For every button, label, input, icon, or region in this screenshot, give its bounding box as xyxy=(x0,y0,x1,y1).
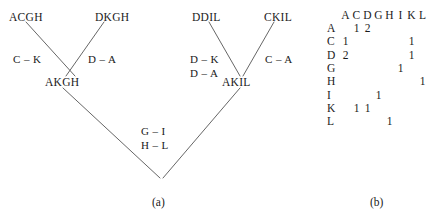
leaf-dkgh: DKGH xyxy=(95,12,129,24)
matrix-cell-g-a xyxy=(340,62,351,75)
matrix-cell-i-h xyxy=(384,89,395,102)
matrix-header-row: A C D G H I K L xyxy=(326,9,428,22)
matrix-cell-l-c xyxy=(351,115,362,128)
matrix-cell-a-g xyxy=(373,22,384,35)
matrix-row-header-i: I xyxy=(326,89,340,102)
matrix-panel: A C D G H I K L A 1 2 xyxy=(322,0,447,222)
matrix-cell-k-l xyxy=(417,102,428,115)
matrix-cell-g-c xyxy=(351,62,362,75)
matrix-cell-i-d xyxy=(362,89,373,102)
edge-label-c-k-line-1: C – K xyxy=(13,53,41,67)
matrix-cell-c-i xyxy=(395,36,406,49)
matrix-col-header-c: C xyxy=(351,9,362,22)
matrix-cell-d-i xyxy=(395,49,406,62)
leaf-ckil: CKIL xyxy=(264,12,292,24)
matrix-cell-a-a xyxy=(340,22,351,35)
matrix-cell-a-i xyxy=(395,22,406,35)
matrix-cell-c-c xyxy=(351,36,362,49)
matrix-col-header-a: A xyxy=(340,9,351,22)
edge-label-h-l-line-2: H – L xyxy=(141,139,169,153)
matrix-cell-a-l xyxy=(417,22,428,35)
edge-label-c-a: C – A xyxy=(265,53,293,67)
matrix-cell-g-l xyxy=(417,62,428,75)
panel-b-caption: (b) xyxy=(370,197,383,209)
table-row: G 1 xyxy=(326,62,428,75)
table-row: I 1 xyxy=(326,89,428,102)
matrix-col-header-h: H xyxy=(384,9,395,22)
matrix-cell-k-a xyxy=(340,102,351,115)
matrix-cell-c-l xyxy=(417,36,428,49)
matrix-cell-c-h xyxy=(384,36,395,49)
matrix-cell-a-d: 2 xyxy=(362,22,373,35)
matrix-cell-i-c xyxy=(351,89,362,102)
matrix-cell-h-a xyxy=(340,75,351,88)
edge-label-d-a: D – A xyxy=(88,53,116,67)
edge-label-d-a-line-1: D – A xyxy=(88,53,116,67)
table-row: L 1 xyxy=(326,115,428,128)
edge-akil-root xyxy=(163,88,240,178)
figure-root: ACGH DKGH DDIL CKIL AKGH AKIL C – K D – … xyxy=(0,0,447,222)
matrix-cell-h-c xyxy=(351,75,362,88)
matrix-cell-h-h xyxy=(384,75,395,88)
matrix-col-header-g: G xyxy=(373,9,384,22)
matrix-cell-i-a xyxy=(340,89,351,102)
matrix-cell-l-k xyxy=(406,115,417,128)
matrix-cell-d-h xyxy=(384,49,395,62)
panel-a-caption: (a) xyxy=(152,197,165,209)
node-akil: AKIL xyxy=(222,77,251,89)
matrix-cell-c-k: 1 xyxy=(406,36,417,49)
edge-dkgh-akgh xyxy=(66,22,104,76)
matrix-row-header-l: L xyxy=(326,115,340,128)
matrix-cell-h-l: 1 xyxy=(417,75,428,88)
matrix-cell-l-i xyxy=(395,115,406,128)
matrix-cell-i-k xyxy=(406,89,417,102)
matrix-cell-d-c xyxy=(351,49,362,62)
matrix-cell-k-i xyxy=(395,102,406,115)
edge-label-c-a-line-1: C – A xyxy=(265,53,293,67)
matrix-cell-d-d xyxy=(362,49,373,62)
matrix-cell-h-g xyxy=(373,75,384,88)
edge-acgh-akgh xyxy=(26,22,75,76)
table-row: D 2 1 xyxy=(326,49,428,62)
table-row: K 1 1 xyxy=(326,102,428,115)
matrix-cell-i-l xyxy=(417,89,428,102)
matrix-cell-i-g: 1 xyxy=(373,89,384,102)
matrix-cell-h-i xyxy=(395,75,406,88)
tree-edges-group xyxy=(0,0,320,222)
tree-panel: ACGH DKGH DDIL CKIL AKGH AKIL C – K D – … xyxy=(0,0,320,222)
leaf-ddil: DDIL xyxy=(192,12,221,24)
matrix-col-header-k: K xyxy=(406,9,417,22)
node-akgh: AKGH xyxy=(45,77,79,89)
matrix-cell-g-k xyxy=(406,62,417,75)
matrix-col-header-d: D xyxy=(362,9,373,22)
matrix-corner-cell xyxy=(326,9,340,22)
edge-label-d-k-line-1: D – K xyxy=(190,53,219,67)
matrix-cell-h-k xyxy=(406,75,417,88)
leaf-acgh: ACGH xyxy=(9,12,43,24)
table-row: A 1 2 xyxy=(326,22,428,35)
substitution-matrix: A C D G H I K L A 1 2 xyxy=(326,9,428,129)
matrix-cell-d-l xyxy=(417,49,428,62)
matrix-cell-c-d xyxy=(362,36,373,49)
matrix-cell-g-g xyxy=(373,62,384,75)
matrix-cell-k-g xyxy=(373,102,384,115)
matrix-cell-i-i xyxy=(395,89,406,102)
edge-label-g-i-line-1: G – I xyxy=(141,125,169,139)
matrix-cell-l-a xyxy=(340,115,351,128)
matrix-row-header-k: K xyxy=(326,102,340,115)
matrix-cell-l-h: 1 xyxy=(384,115,395,128)
matrix-row-header-d: D xyxy=(326,49,340,62)
edge-label-g-i-h-l: G – I H – L xyxy=(141,125,169,153)
matrix-col-header-l: L xyxy=(417,9,428,22)
matrix-cell-k-c: 1 xyxy=(351,102,362,115)
matrix-row-header-h: H xyxy=(326,75,340,88)
edge-label-d-a-line-2: D – A xyxy=(190,67,219,81)
matrix-row-header-g: G xyxy=(326,62,340,75)
matrix-cell-d-a: 2 xyxy=(340,49,351,62)
matrix-cell-h-d xyxy=(362,75,373,88)
matrix-cell-l-l xyxy=(417,115,428,128)
matrix-cell-l-g xyxy=(373,115,384,128)
matrix-cell-g-h xyxy=(384,62,395,75)
matrix-cell-a-h xyxy=(384,22,395,35)
matrix-cell-a-c: 1 xyxy=(351,22,362,35)
